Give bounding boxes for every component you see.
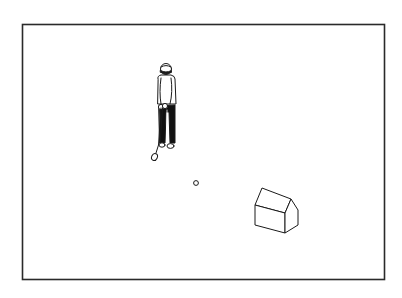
- golfer-hand-right: [162, 103, 167, 108]
- illustration-canvas: [0, 0, 402, 298]
- background: [0, 0, 402, 298]
- golfer-shoe-right: [167, 144, 174, 149]
- golfer-shoe-left: [159, 143, 165, 147]
- golf-ball: [194, 181, 199, 186]
